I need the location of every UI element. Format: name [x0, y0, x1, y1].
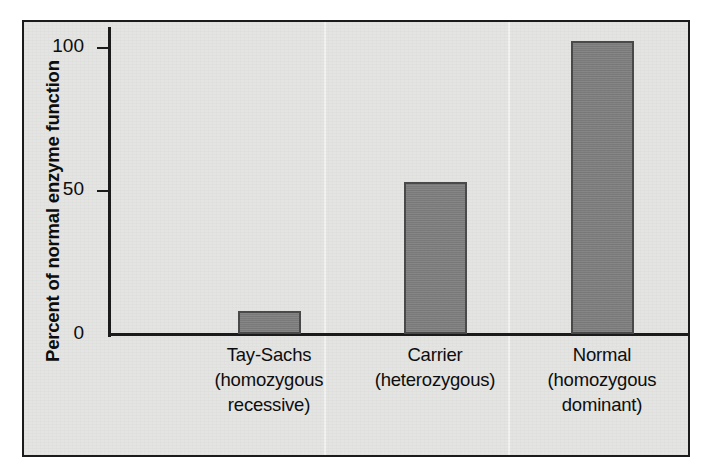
y-tick-label-0: 0 — [24, 322, 84, 344]
x-axis-label-line: dominant) — [497, 392, 705, 417]
y-tick-label-50: 50 — [24, 178, 84, 200]
x-axis-label-line: Normal — [497, 342, 705, 367]
y-tick-mark-100 — [97, 47, 109, 49]
y-tick-mark-50 — [97, 190, 109, 192]
x-axis-label-line: (homozygous — [497, 367, 705, 392]
y-tick-label-100: 100 — [24, 35, 84, 57]
y-axis-line — [108, 27, 111, 337]
bar-carrier[interactable] — [404, 182, 467, 334]
bar-normal[interactable] — [571, 41, 634, 334]
x-axis-label-normal: Normal(homozygousdominant) — [497, 342, 705, 417]
figure-panel: Percent of normal enzyme function 100 50… — [22, 20, 690, 457]
bar-tay-sachs[interactable] — [238, 311, 301, 334]
x-axis-label-line: recessive) — [164, 392, 374, 417]
